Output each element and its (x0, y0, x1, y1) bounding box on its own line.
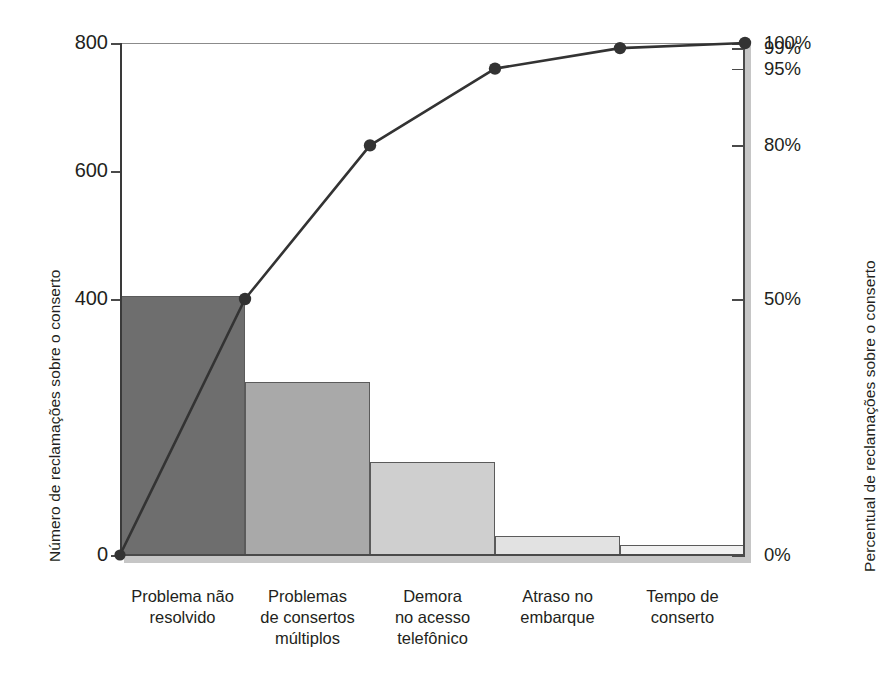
right-axis-tick-label: 0% (764, 544, 791, 566)
right-axis-title: Percentual de reclamações sobre o conser… (861, 260, 879, 572)
right-axis-tick-label: 50% (764, 288, 801, 310)
category-label: Demorano acessotelefônico (370, 586, 495, 664)
category-label-line: no acesso (370, 607, 495, 628)
plot-area (120, 43, 745, 555)
left-axis-tick-labels: 0400600800 (0, 0, 108, 687)
left-axis-tick (111, 171, 120, 173)
cumulative-line-path (120, 43, 745, 555)
left-axis-tick-label: 600 (75, 159, 108, 182)
category-label: Tempo deconserto (620, 586, 745, 664)
right-axis-tick-label: 95% (764, 57, 801, 79)
left-axis-tick-label: 800 (75, 31, 108, 54)
category-label: Atraso noembarque (495, 586, 620, 664)
cumulative-line-marker (489, 62, 501, 74)
category-label-line: Tempo de (620, 586, 745, 607)
category-label-line: resolvido (120, 607, 245, 628)
cumulative-line-marker (114, 549, 125, 560)
category-label-line: Demora (370, 586, 495, 607)
cumulative-line-marker (239, 293, 251, 305)
category-label-line: Problemas (245, 586, 370, 607)
left-axis-tick-label: 0 (97, 543, 108, 566)
category-axis-labels: Problema nãoresolvidoProblemasde consert… (120, 586, 745, 664)
left-axis-tick-label: 400 (75, 287, 108, 310)
left-axis-tick (111, 43, 120, 45)
cumulative-percentage-line (120, 43, 745, 555)
right-axis-tick-label: 80% (764, 134, 801, 156)
category-label-line: telefônico (370, 628, 495, 649)
category-label: Problemasde consertosmúltiplos (245, 586, 370, 664)
category-label-line: Problema não (120, 586, 245, 607)
category-label: Problema nãoresolvido (120, 586, 245, 664)
right-axis-tick-label: 100% (764, 32, 811, 54)
cumulative-line-marker (739, 37, 751, 49)
category-label-line: conserto (620, 607, 745, 628)
right-axis-tick (732, 555, 745, 557)
cumulative-line-marker (364, 139, 376, 151)
category-label-line: embarque (495, 607, 620, 628)
cumulative-line-marker (614, 42, 626, 54)
left-axis-tick (111, 299, 120, 301)
category-label-line: Atraso no (495, 586, 620, 607)
right-axis-shadow (745, 45, 751, 557)
category-label-line: de consertos (245, 607, 370, 628)
category-label-line: múltiplos (245, 628, 370, 649)
x-axis-shadow (124, 556, 751, 563)
